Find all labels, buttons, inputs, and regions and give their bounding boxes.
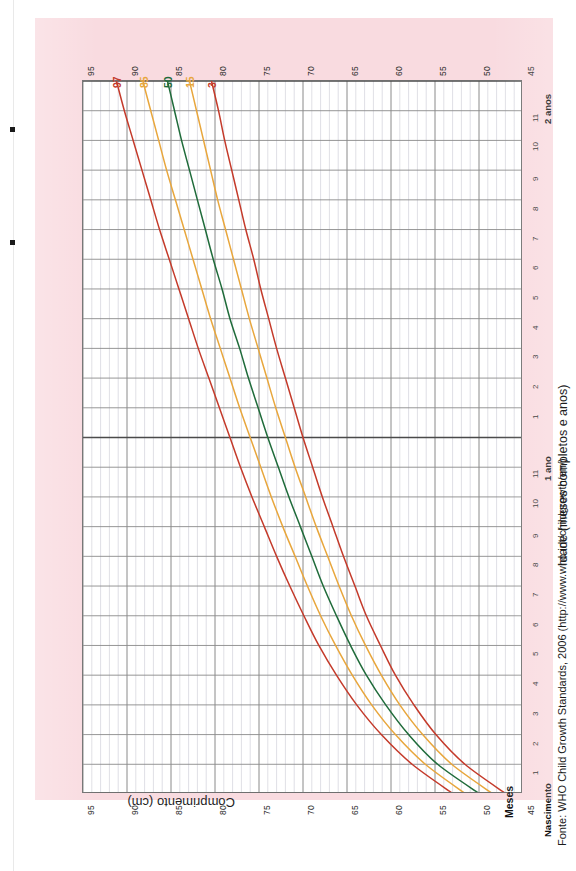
age-tick-18: 6 [531,266,540,270]
length-tick-bottom-65: 65 [350,805,360,815]
length-tick-top-45: 45 [526,66,536,76]
length-tick-bottom-95: 95 [86,805,96,815]
length-axis-title: Comprimento (cm) [127,795,235,810]
length-tick-top-80: 80 [218,66,228,76]
percentile-curves [83,81,522,793]
months-axis-label: Meses [503,786,515,818]
age-tick-2: 2 [531,741,540,745]
age-tick-23: 11 [531,113,540,121]
age-tick-0: Nascimento [542,783,553,837]
percentile-label-15: 15 [184,76,196,88]
registration-mark-top [10,127,15,132]
age-tick-15: 3 [531,355,540,359]
registration-mark-bottom [10,240,15,245]
age-tick-16: 4 [531,325,540,329]
length-tick-bottom-50: 50 [482,805,492,815]
age-tick-4: 4 [531,682,540,686]
percentile-label-97: 97 [111,76,123,88]
age-tick-10: 10 [531,499,540,508]
length-tick-top-55: 55 [438,66,448,76]
age-tick-7: 7 [531,593,540,597]
length-tick-bottom-75: 75 [262,805,272,815]
age-tick-1: 1 [531,771,540,775]
percentile-label-85: 85 [138,76,150,88]
length-tick-top-70: 70 [306,66,316,76]
length-tick-top-50: 50 [482,66,492,76]
age-tick-12: 1 ano [542,456,553,481]
age-tick-22: 10 [531,143,540,152]
source-note: Fonte: WHO Child Growth Standards, 2006 … [556,458,568,846]
length-tick-bottom-55: 55 [438,805,448,815]
length-tick-top-85: 85 [174,66,184,76]
age-tick-24: 2 anos [542,94,553,124]
age-tick-9: 9 [531,533,540,537]
length-tick-top-75: 75 [262,66,272,76]
chart-plot-area [82,80,522,793]
age-tick-6: 6 [531,622,540,626]
length-tick-bottom-60: 60 [394,805,404,815]
length-tick-bottom-70: 70 [306,805,316,815]
length-tick-top-90: 90 [130,66,140,76]
age-tick-3: 3 [531,711,540,715]
percentile-label-50: 50 [162,76,174,88]
age-tick-14: 2 [531,385,540,389]
chart-page-panel: 9590858075706560555045959085807570656055… [35,18,553,800]
age-tick-8: 8 [531,563,540,567]
age-tick-21: 9 [531,177,540,181]
percentile-label-3: 3 [206,82,218,88]
age-tick-5: 5 [531,652,540,656]
length-tick-top-95: 95 [86,66,96,76]
length-tick-top-60: 60 [394,66,404,76]
length-tick-top-65: 65 [350,66,360,76]
age-tick-11: 11 [531,470,540,478]
age-tick-13: 1 [531,414,540,418]
age-tick-19: 7 [531,236,540,240]
length-tick-bottom-45: 45 [526,805,536,815]
age-tick-17: 5 [531,296,540,300]
age-tick-20: 8 [531,206,540,210]
